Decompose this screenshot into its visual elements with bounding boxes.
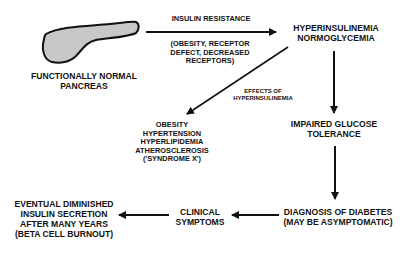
node-hyperinsulinemia: HYPERINSULINEMIA NORMOGLYCEMIA (286, 24, 386, 44)
node-eventual-burnout: EVENTUAL DIMINISHED INSULIN SECRETION AF… (8, 200, 120, 240)
node-clinical-symptoms: CLINICAL SYMPTOMS (170, 208, 230, 228)
edge-label-insulin-resistance: INSULIN RESISTANCE (156, 15, 266, 24)
edge-label-effects: EFFECTS OF HYPERINSULINEMIA (224, 88, 302, 102)
edge-label-causes: (OBESITY, RECEPTOR DEFECT, DECREASED REC… (150, 40, 270, 66)
node-syndrome-x: OBESITY HYPERTENSION HYPERLIPIDEMIA ATHE… (130, 121, 214, 164)
node-pancreas: FUNCTIONALLY NORMAL PANCREAS (26, 72, 142, 92)
node-diagnosis: DIAGNOSIS OF DIABETES (MAY BE ASYMPTOMAT… (280, 208, 396, 228)
pancreas-icon (43, 22, 139, 63)
node-impaired-glucose: IMPAIRED GLUCOSE TOLERANCE (284, 120, 384, 140)
